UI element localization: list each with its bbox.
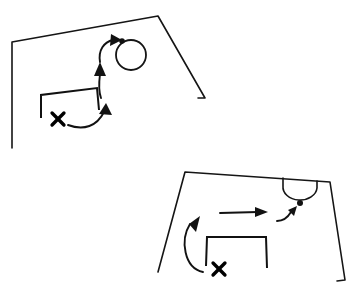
tactics-board bbox=[0, 0, 357, 292]
board-background bbox=[0, 0, 357, 292]
ball-bottom bbox=[297, 200, 303, 206]
pass-arrow-bottom-straight bbox=[220, 212, 258, 213]
